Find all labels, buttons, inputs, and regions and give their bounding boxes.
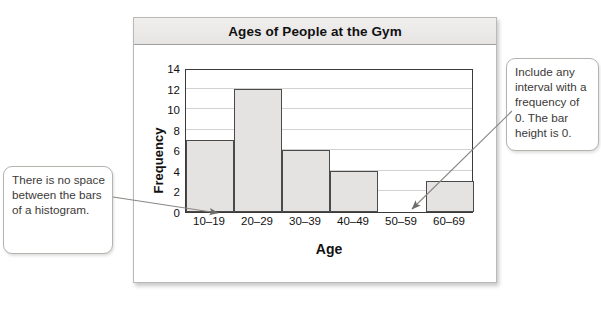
chart-title: Ages of People at the Gym (228, 24, 402, 39)
x-tick-label: 20–29 (233, 215, 281, 227)
y-tick-label: 6 (174, 145, 180, 157)
x-axis-title: Age (185, 241, 473, 257)
x-axis-tick-labels: 10–1920–2930–3940–4950–5960–69 (185, 215, 473, 233)
histogram-bar (234, 89, 282, 212)
callout-right-note: Include any interval with a frequency of… (506, 58, 599, 151)
y-axis-tick-labels: 02468101214 (154, 69, 180, 213)
chart-title-bar: Ages of People at the Gym (134, 18, 496, 45)
histogram-bar (186, 140, 234, 212)
y-tick-label: 10 (167, 104, 180, 116)
plot-wrap: Frequency 02468101214 10–1920–2930–3940–… (134, 45, 498, 284)
y-tick-label: 4 (174, 166, 180, 178)
x-tick-label: 60–69 (425, 215, 473, 227)
histogram-bar (426, 181, 474, 212)
y-tick-label: 0 (174, 207, 180, 219)
histogram-bar (330, 171, 378, 212)
y-tick-label: 2 (174, 186, 180, 198)
plot-area (185, 69, 473, 213)
x-tick-label: 50–59 (377, 215, 425, 227)
y-tick-label: 14 (167, 63, 180, 75)
x-tick-label: 40–49 (329, 215, 377, 227)
x-tick-label: 10–19 (185, 215, 233, 227)
gridline (186, 129, 472, 130)
histogram-bar (282, 150, 330, 212)
chart-panel: Ages of People at the Gym Frequency 0246… (133, 17, 497, 283)
gridline (186, 88, 472, 89)
y-tick-label: 8 (174, 125, 180, 137)
x-tick-label: 30–39 (281, 215, 329, 227)
y-tick-label: 12 (167, 84, 180, 96)
gridline (186, 108, 472, 109)
callout-left-note: There is no space between the bars of a … (3, 166, 113, 254)
